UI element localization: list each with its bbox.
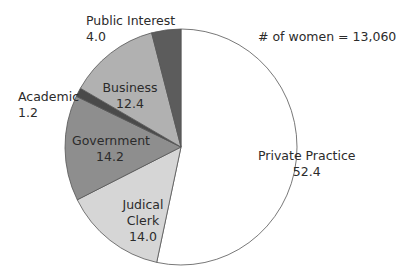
- sample-size-note: # of women = 13,060: [258, 29, 396, 44]
- label-judicial-name-1: Judical: [113, 197, 173, 213]
- label-business: Business 12.4: [100, 80, 160, 112]
- label-government: Government 14.2: [72, 133, 148, 165]
- label-judicial-value: 14.0: [113, 229, 173, 245]
- label-private-practice: Private Practice 52.4: [258, 148, 355, 180]
- label-public-interest: Public Interest 4.0: [86, 13, 175, 45]
- label-academic-name: Academic: [18, 89, 79, 105]
- label-government-value: 14.2: [72, 149, 148, 165]
- label-business-value: 12.4: [100, 96, 160, 112]
- label-academic-value: 1.2: [18, 105, 79, 121]
- label-public-interest-name: Public Interest: [86, 13, 175, 29]
- label-private-practice-value: 52.4: [258, 164, 355, 180]
- label-academic: Academic 1.2: [18, 89, 79, 121]
- label-judicial-name-2: Clerk: [113, 213, 173, 229]
- label-government-name: Government: [72, 133, 148, 149]
- label-judicial-clerk: Judical Clerk 14.0: [113, 197, 173, 245]
- label-business-name: Business: [100, 80, 160, 96]
- label-public-interest-value: 4.0: [86, 29, 175, 45]
- label-private-practice-name: Private Practice: [258, 148, 355, 164]
